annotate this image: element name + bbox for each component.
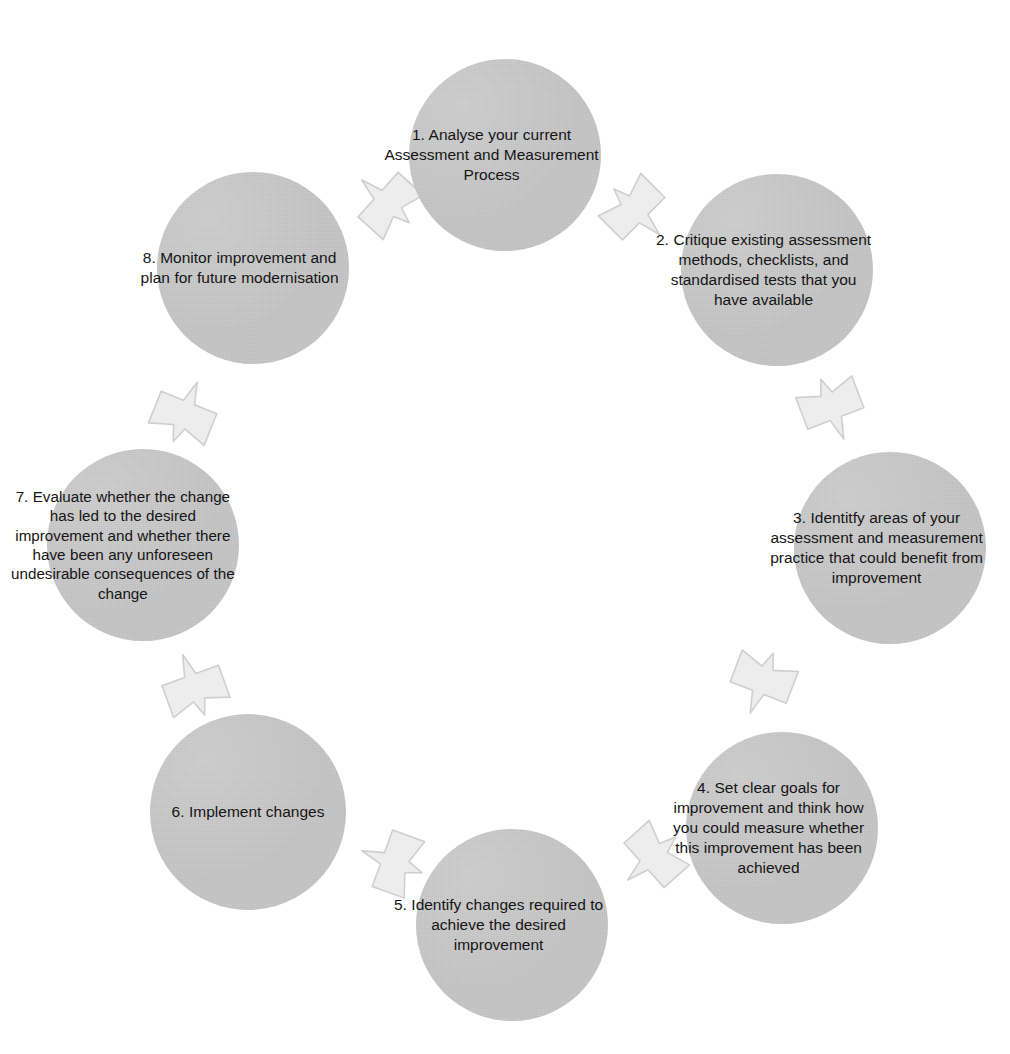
step-label-4: 4. Set clear goals for improvement and t… — [659, 778, 878, 879]
step-label-3: 3. Identitfy areas of your assessment an… — [767, 508, 986, 589]
step-circle-3[interactable]: 3. Identitfy areas of your assessment an… — [794, 452, 986, 644]
step-label-7: 7. Evaluate whether the change has led t… — [7, 487, 239, 604]
step-circle-7[interactable]: 7. Evaluate whether the change has led t… — [47, 449, 239, 641]
arrow-step-3-to-step-4 — [722, 643, 801, 724]
step-circle-6[interactable]: 6. Implement changes — [150, 714, 346, 910]
step-circle-1[interactable]: 1. Analyse your current Assessment and M… — [409, 59, 601, 251]
arrow-step-5-to-step-6 — [352, 823, 433, 901]
step-circle-4[interactable]: 4. Set clear goals for improvement and t… — [686, 732, 878, 924]
step-circle-2[interactable]: 2. Critique existing assessment methods,… — [681, 174, 873, 366]
arrow-step-6-to-step-7 — [155, 645, 233, 726]
arrow-step-7-to-step-8 — [145, 371, 225, 453]
step-label-1: 1. Analyse your current Assessment and M… — [382, 125, 601, 185]
diagram-canvas: 1. Analyse your current Assessment and M… — [0, 0, 1010, 1054]
step-circle-8[interactable]: 8. Monitor improvement and plan for futu… — [157, 172, 349, 364]
step-label-5: 5. Identify changes required to achieve … — [389, 895, 608, 955]
step-label-6: 6. Implement changes — [154, 802, 342, 822]
step-label-2: 2. Critique existing assessment methods,… — [654, 230, 873, 311]
step-circle-5[interactable]: 5. Identify changes required to achieve … — [416, 829, 608, 1021]
arrow-step-2-to-step-3 — [793, 369, 872, 450]
step-label-8: 8. Monitor improvement and plan for futu… — [130, 248, 349, 288]
